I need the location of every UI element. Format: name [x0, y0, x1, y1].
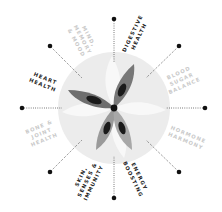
health-benefits-diagram: MIND, MEMORY & MOOD DIGESTIVE HEALTH BLO… [0, 0, 222, 212]
label-digestive-health: DIGESTIVE HEALTH [121, 14, 151, 56]
dot-bottom-right [177, 170, 182, 175]
label-hormone-harmony: HORMONE HARMONY [167, 124, 207, 150]
label-energy-boosting: ENERGY BOOSTING [122, 157, 151, 198]
dot-top-right [177, 44, 182, 49]
label-blood-sugar-balance: BLOOD SUGAR BALANCE [162, 63, 202, 95]
dot-right [203, 106, 208, 111]
label-bone-joint-health: BONE & JOINT HEALTH [24, 118, 59, 147]
label-skin-senses-immunity: SKIN, SENSES & IMMUNITY [70, 158, 105, 202]
label-heart-health: HEART HEALTH [28, 70, 60, 93]
flower-center [111, 105, 118, 112]
dot-top [112, 17, 117, 22]
dot-left [20, 106, 25, 111]
dot-top-left [48, 44, 53, 49]
dot-bottom-left [48, 170, 53, 175]
label-mind-memory-mood: MIND, MEMORY & MOOD [66, 21, 99, 59]
dot-bottom [112, 196, 117, 201]
